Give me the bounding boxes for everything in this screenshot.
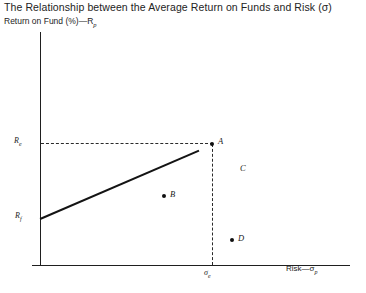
y-tick-label-rf: Rf: [15, 211, 22, 222]
data-point-b-marker: [162, 194, 166, 198]
chart-title-text: The Relationship between the Average Ret…: [4, 1, 332, 13]
data-point-a-label: A: [218, 136, 223, 146]
data-point-a-marker: [210, 142, 214, 146]
y-tick-re-subscript: e: [19, 141, 22, 147]
y-axis-label-subscript: p: [93, 16, 96, 26]
y-axis-label: Return on Fund (%)—Rp: [4, 16, 97, 28]
data-point-b-label: B: [170, 189, 175, 199]
chart-title: The Relationship between the Average Ret…: [4, 1, 332, 13]
x-tick-label-sigma-e: σe: [204, 268, 211, 279]
y-tick-label-re: Re: [14, 136, 22, 147]
x-tick-sigma-subscript: e: [208, 273, 211, 279]
guide-line-horizontal-dashed: [41, 143, 213, 144]
y-tick-rf-subscript: f: [20, 216, 22, 222]
data-point-d-label: D: [238, 233, 244, 243]
chart-figure: The Relationship between the Average Ret…: [0, 0, 366, 293]
data-point-d-marker: [230, 238, 234, 242]
y-axis-line: [40, 32, 41, 266]
guide-line-vertical-dashed: [212, 144, 213, 265]
y-axis-label-text: Return on Fund (%)—R: [4, 16, 93, 26]
x-axis-line: [32, 265, 350, 266]
data-point-c-label: C: [240, 163, 246, 173]
capital-market-line: [40, 150, 200, 220]
